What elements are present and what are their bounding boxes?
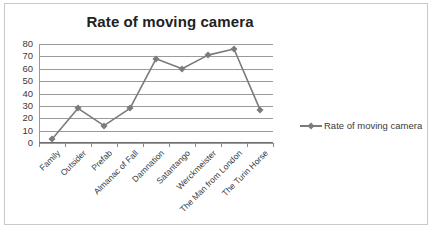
y-axis-tick-label: 0 (9, 138, 33, 148)
data-point-marker (74, 105, 81, 112)
y-axis-tick-label: 50 (9, 76, 33, 86)
chart-container: Rate of moving camera 80706050403020100 … (4, 3, 428, 225)
x-axis-labels: FamilyOutsiderPrefabAlmanac of FallDamna… (39, 148, 299, 220)
data-point-marker (204, 52, 211, 59)
chart-title: Rate of moving camera (5, 13, 335, 30)
data-point-marker (230, 45, 237, 52)
x-axis-tick (39, 143, 40, 147)
legend: Rate of moving camera (300, 120, 422, 131)
legend-marker-icon (300, 121, 322, 130)
data-point-marker (178, 65, 185, 72)
page-caption (15, 234, 275, 239)
data-point-marker (126, 105, 133, 112)
data-point-marker (48, 136, 55, 143)
y-axis-tick-label: 10 (9, 126, 33, 136)
y-axis-tick-label: 80 (9, 39, 33, 49)
y-axis-tick-label: 20 (9, 113, 33, 123)
data-point-marker (152, 55, 159, 62)
y-axis-tick-label: 30 (9, 101, 33, 111)
legend-label: Rate of moving camera (324, 120, 422, 131)
y-axis-tick-label: 70 (9, 51, 33, 61)
y-axis-tick-label: 60 (9, 64, 33, 74)
y-axis-tick-label: 40 (9, 89, 33, 99)
data-point-marker (256, 106, 263, 113)
